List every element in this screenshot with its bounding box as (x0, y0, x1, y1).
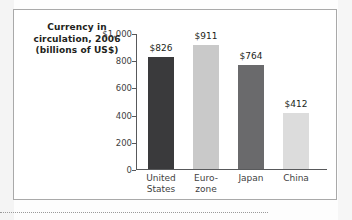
bottom-dotted-divider (0, 212, 268, 213)
paper-edge-right (338, 0, 352, 220)
x-axis-line (136, 169, 327, 170)
bar-china[interactable] (283, 113, 309, 169)
y-axis-tick-mark (132, 143, 136, 144)
y-axis-tick-label: 200 (72, 138, 132, 148)
bar-euro-zone[interactable] (193, 45, 219, 169)
bar-united-states[interactable] (148, 57, 174, 169)
bar-value-united-states: $826 (131, 43, 191, 53)
y-axis-tick-label: 0 (72, 165, 132, 175)
bar-value-japan: $764 (221, 51, 281, 61)
bar-chart-plot: $1,000 800 600 400 200 0 $826 $911 $764 … (14, 10, 338, 201)
bar-japan[interactable] (238, 65, 264, 169)
y-axis-tick-mark (132, 88, 136, 89)
y-axis-line (136, 34, 137, 170)
x-axis-label-line: China (265, 173, 327, 184)
y-axis-tick-mark (132, 61, 136, 62)
bar-value-euro-zone: $911 (176, 31, 236, 41)
paper-edge-left (0, 0, 14, 220)
page-canvas: Currency in circulation, 2006 (billions … (0, 0, 352, 220)
y-axis-tick-mark (132, 34, 136, 35)
figure-frame: Currency in circulation, 2006 (billions … (13, 9, 337, 200)
y-axis-tick-label: 400 (72, 111, 132, 121)
bar-value-china: $412 (266, 99, 326, 109)
y-axis-tick-mark (132, 170, 136, 171)
y-axis-tick-label: 600 (72, 83, 132, 93)
y-axis-tick-label: $1,000 (72, 29, 132, 39)
y-axis-tick-label: 800 (72, 56, 132, 66)
y-axis-tick-mark (132, 116, 136, 117)
x-axis-label-china: China (265, 173, 327, 184)
x-axis-label-line: zone (175, 184, 237, 195)
